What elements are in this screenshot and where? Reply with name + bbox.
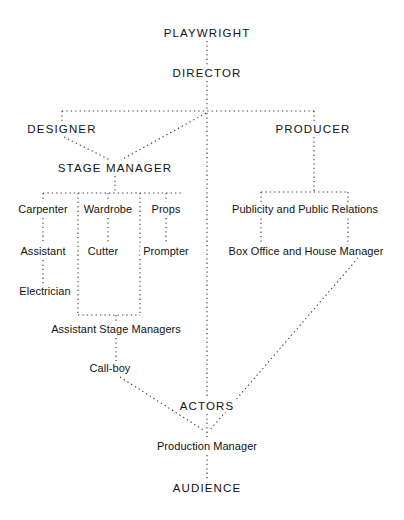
organisation-chart: PLAYWRIGHT DIRECTOR DESIGNER PRODUCER ST… (0, 0, 404, 520)
node-box-office[interactable]: Box Office and House Manager (226, 246, 387, 258)
node-stage-manager[interactable]: STAGE MANAGER (55, 162, 175, 174)
node-actors[interactable]: ACTORS (177, 400, 238, 412)
node-electrician[interactable]: Electrician (16, 286, 73, 298)
node-publicity[interactable]: Publicity and Public Relations (229, 204, 381, 216)
node-production-manager[interactable]: Production Manager (154, 441, 260, 453)
node-prompter[interactable]: Prompter (140, 246, 192, 258)
node-producer[interactable]: PRODUCER (272, 123, 353, 135)
node-wardrobe[interactable]: Wardrobe (81, 204, 135, 216)
node-director[interactable]: DIRECTOR (169, 67, 244, 79)
node-designer[interactable]: DESIGNER (24, 123, 99, 135)
node-call-boy[interactable]: Call-boy (87, 363, 134, 375)
connector-director-stage-manager (121, 113, 206, 160)
node-assistant[interactable]: Assistant (17, 246, 68, 258)
node-carpenter[interactable]: Carpenter (15, 204, 70, 216)
node-assistant-stage-managers[interactable]: Assistant Stage Managers (48, 324, 184, 336)
node-playwright[interactable]: PLAYWRIGHT (161, 27, 254, 39)
node-cutter[interactable]: Cutter (85, 246, 121, 258)
node-props[interactable]: Props (148, 204, 183, 216)
node-audience[interactable]: AUDIENCE (170, 482, 245, 494)
connector-designer-stage-manager (64, 137, 110, 160)
